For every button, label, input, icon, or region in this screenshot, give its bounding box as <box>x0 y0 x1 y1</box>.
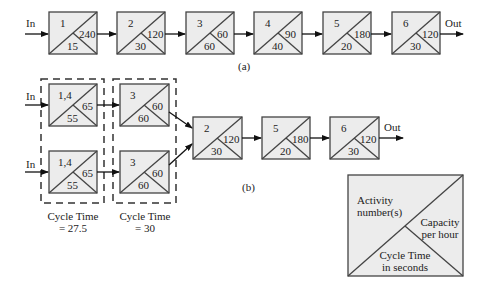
capacity-a5: 180 <box>354 28 371 40</box>
capacity-a2: 120 <box>147 28 164 40</box>
group-1-caption: Cycle Time = 27.5 <box>36 210 110 234</box>
cycle-time-a4: 40 <box>272 40 283 52</box>
legend-cycle-time-line1: Cycle Time <box>375 249 435 261</box>
activity-b-bot-2: 3 <box>130 156 136 168</box>
legend-activity-line2: number(s) <box>357 206 402 218</box>
input-label-b-bottom: In <box>26 158 35 170</box>
cycle-time-b-top-1: 55 <box>67 112 78 124</box>
capacity-b-bot-1: 65 <box>82 167 93 179</box>
activity-b-top-1: 1,4 <box>58 89 72 101</box>
row-b-stations <box>49 84 379 193</box>
output-label-b: Out <box>384 121 401 133</box>
legend-capacity-label: Capacity per hour <box>417 216 463 240</box>
legend-activity-label: Activity number(s) <box>357 194 402 218</box>
diagram-a-label: (a) <box>238 60 250 72</box>
activity-a5: 5 <box>334 17 340 29</box>
group-1-caption-line2: = 27.5 <box>36 222 110 234</box>
group-2-caption-line2: = 30 <box>108 222 182 234</box>
legend-capacity-line2: per hour <box>417 228 463 240</box>
activity-a4: 4 <box>265 17 271 29</box>
activity-b2: 2 <box>204 122 210 134</box>
capacity-b6: 120 <box>360 133 377 145</box>
row-a-stations <box>49 12 440 54</box>
activity-a6: 6 <box>403 17 409 29</box>
input-label-a: In <box>26 17 35 29</box>
capacity-b-top-1: 65 <box>82 100 93 112</box>
capacity-b5: 180 <box>292 133 309 145</box>
cycle-time-a5: 20 <box>341 40 352 52</box>
activity-b6: 6 <box>341 122 347 134</box>
legend-capacity-line1: Capacity <box>417 216 463 228</box>
cycle-time-a1: 15 <box>67 40 78 52</box>
capacity-b-top-2: 60 <box>152 100 163 112</box>
capacity-a6: 120 <box>422 28 439 40</box>
legend-activity-line1: Activity <box>357 194 402 206</box>
legend-cycle-time-label: Cycle Time in seconds <box>375 249 435 273</box>
capacity-b2: 120 <box>223 133 240 145</box>
group-2-caption: Cycle Time = 30 <box>108 210 182 234</box>
activity-a1: 1 <box>60 17 66 29</box>
activity-a2: 2 <box>128 17 134 29</box>
cycle-time-b6: 30 <box>348 145 359 157</box>
cycle-time-b2: 30 <box>211 145 222 157</box>
activity-b5: 5 <box>273 122 279 134</box>
input-label-b-top: In <box>26 90 35 102</box>
capacity-a1: 240 <box>79 28 96 40</box>
capacity-a3: 60 <box>217 28 228 40</box>
output-label-a: Out <box>445 17 462 29</box>
capacity-a4: 90 <box>285 28 296 40</box>
cycle-time-a6: 30 <box>410 40 421 52</box>
cycle-time-a2: 30 <box>135 40 146 52</box>
activity-b-top-2: 3 <box>130 89 136 101</box>
group-2-caption-line1: Cycle Time <box>108 210 182 222</box>
cycle-time-a3: 60 <box>204 40 215 52</box>
cycle-time-b5: 20 <box>280 145 291 157</box>
activity-a3: 3 <box>197 17 203 29</box>
diagram-b-label: (b) <box>242 181 255 193</box>
cycle-time-b-top-2: 60 <box>138 112 149 124</box>
cycle-time-b-bot-2: 60 <box>138 179 149 191</box>
legend-cycle-time-line2: in seconds <box>375 261 435 273</box>
capacity-b-bot-2: 60 <box>152 167 163 179</box>
cycle-time-b-bot-1: 55 <box>67 179 78 191</box>
group-1-caption-line1: Cycle Time <box>36 210 110 222</box>
activity-b-bot-1: 1,4 <box>58 156 72 168</box>
